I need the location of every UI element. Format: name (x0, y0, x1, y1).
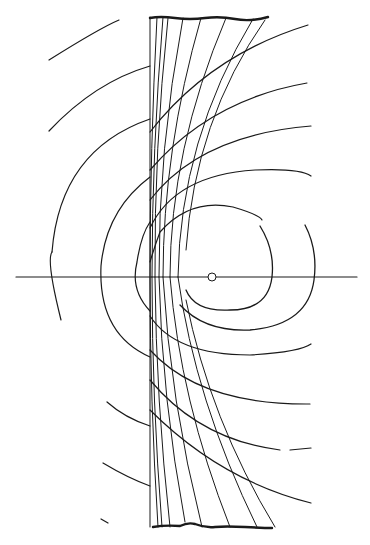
plate-line (155, 18, 168, 277)
left-arc (101, 177, 150, 357)
near-circle (186, 226, 273, 310)
left-arc (50, 252, 61, 320)
left-arc (49, 20, 119, 60)
left-arc (52, 119, 150, 252)
right-arc (150, 25, 308, 132)
right-arc (150, 316, 311, 355)
left-arc (135, 222, 150, 311)
right-arc (290, 448, 311, 450)
point-source-icon (208, 273, 216, 281)
plate-line (155, 277, 170, 527)
left-arc (101, 519, 108, 523)
right-arc (150, 83, 307, 170)
plate-line (163, 277, 202, 527)
field-lines-diagram (0, 0, 370, 545)
left-arc (103, 463, 150, 486)
right-arc (150, 350, 310, 404)
left-arc (107, 402, 150, 426)
right-arc (150, 205, 262, 262)
right-field-arcs (150, 25, 311, 503)
plate-line (163, 18, 201, 277)
plate-line (159, 277, 185, 522)
left-wavefront-arcs (49, 20, 150, 523)
left-arc (49, 66, 150, 131)
plate-line (186, 300, 275, 527)
plate-converging-lines (150, 17, 275, 527)
plate-bottom-edge (153, 523, 272, 528)
